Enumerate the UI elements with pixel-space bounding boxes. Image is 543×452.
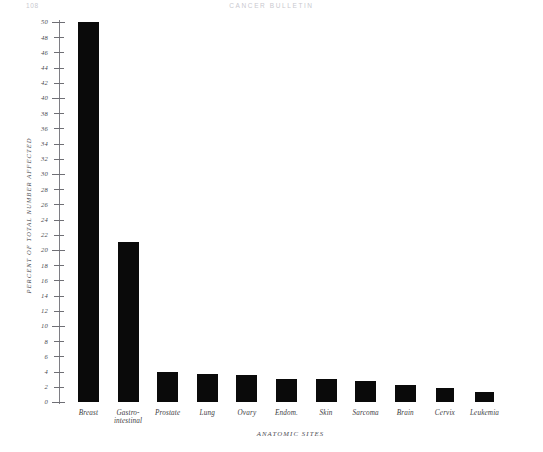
y-tick-label-46: 46 — [26, 49, 48, 56]
y-tick-6 — [54, 356, 64, 357]
bar — [355, 381, 376, 402]
y-tick-34 — [54, 144, 64, 145]
y-tick-36 — [54, 128, 64, 129]
bar — [236, 375, 257, 402]
y-tick-46 — [54, 52, 64, 53]
x-category-label: Leukemia — [455, 409, 515, 417]
y-axis-line — [59, 20, 60, 404]
bar — [78, 22, 99, 402]
bar — [436, 388, 455, 402]
x-axis-title: ANATOMIC SITES — [0, 430, 543, 437]
y-tick-44 — [54, 68, 64, 69]
y-tick-24 — [54, 220, 64, 221]
y-tick-4 — [54, 372, 64, 373]
y-tick-label-10: 10 — [26, 322, 48, 329]
y-tick-label-44: 44 — [26, 64, 48, 71]
y-tick-label-0: 0 — [26, 398, 48, 405]
y-tick-42 — [54, 83, 64, 84]
y-tick-18 — [54, 265, 64, 266]
bar — [475, 392, 494, 402]
chart-page: 108 CANCER BULLETIN 02468101214161820222… — [0, 0, 543, 452]
bar — [118, 242, 139, 402]
y-tick-16 — [54, 280, 64, 281]
y-tick-14 — [54, 296, 64, 297]
y-tick-48 — [54, 37, 64, 38]
y-tick-20 — [52, 250, 65, 251]
y-tick-32 — [54, 159, 64, 160]
y-tick-label-48: 48 — [26, 34, 48, 41]
y-axis-title: PERCENT OF TOTAL NUMBER AFFECTED — [25, 126, 32, 306]
y-tick-8 — [54, 341, 64, 342]
y-tick-label-50: 50 — [26, 18, 48, 25]
y-tick-label-42: 42 — [26, 79, 48, 86]
bar-chart: 0246810121416182022242628303234363840424… — [0, 0, 543, 452]
y-tick-28 — [54, 189, 64, 190]
y-tick-22 — [54, 235, 64, 236]
y-tick-0 — [52, 402, 65, 403]
bar — [395, 385, 416, 402]
y-tick-label-40: 40 — [26, 94, 48, 101]
y-tick-label-38: 38 — [26, 110, 48, 117]
y-tick-30 — [52, 174, 65, 175]
y-tick-12 — [54, 311, 64, 312]
y-tick-40 — [52, 98, 65, 99]
y-tick-10 — [52, 326, 65, 327]
y-tick-2 — [54, 387, 64, 388]
y-tick-label-2: 2 — [26, 383, 48, 390]
y-tick-label-6: 6 — [26, 353, 48, 360]
y-tick-38 — [54, 113, 64, 114]
y-tick-50 — [52, 22, 65, 23]
bar — [316, 379, 337, 402]
y-tick-26 — [54, 204, 64, 205]
bar — [276, 379, 297, 402]
y-tick-label-4: 4 — [26, 368, 48, 375]
bar — [157, 372, 178, 402]
y-tick-label-8: 8 — [26, 338, 48, 345]
y-tick-label-12: 12 — [26, 307, 48, 314]
bar — [197, 374, 218, 402]
